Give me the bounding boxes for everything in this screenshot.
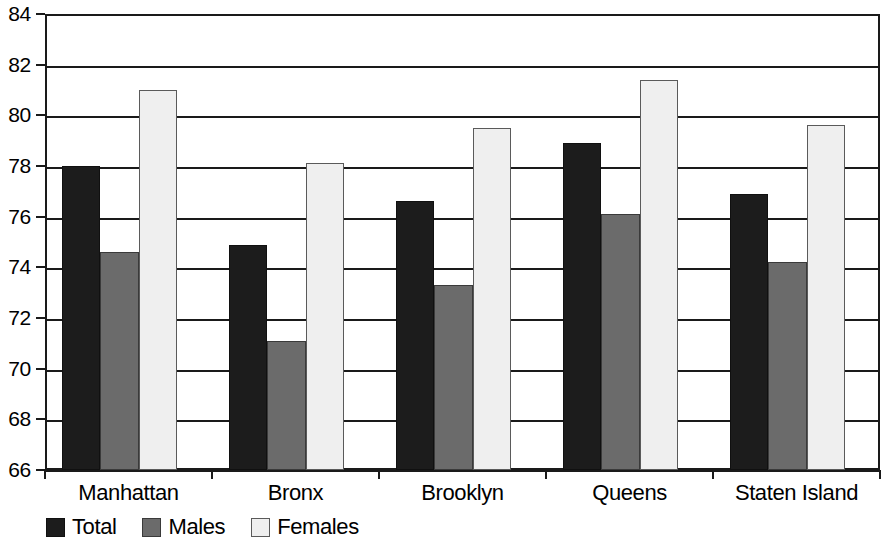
gridline [47, 66, 878, 68]
gridline [47, 420, 878, 422]
legend-swatch-males-icon [142, 518, 161, 537]
y-tick-mark [36, 13, 45, 15]
y-tick-label: 74 [2, 256, 31, 277]
x-category-label-brooklyn: Brooklyn [379, 480, 546, 506]
y-tick-label: 70 [2, 358, 31, 379]
y-tick-label: 66 [2, 459, 31, 480]
x-tick-mark [545, 470, 547, 479]
x-category-label-bronx: Bronx [212, 480, 379, 506]
y-tick-mark [36, 216, 45, 218]
x-tick-mark [879, 470, 881, 479]
y-tick-mark [36, 114, 45, 116]
y-tick-label: 68 [2, 408, 31, 429]
y-tick-mark [36, 266, 45, 268]
legend-item-females[interactable]: Females [251, 516, 359, 538]
bar-chart: 66687072747678808284 ManhattanBronxBrook… [0, 0, 886, 546]
legend-label: Total [72, 516, 116, 538]
plot-area [45, 14, 880, 470]
y-tick-mark [36, 64, 45, 66]
gridline [47, 167, 878, 169]
y-tick-label: 76 [2, 206, 31, 227]
gridline [47, 116, 878, 118]
x-axis-line [45, 470, 880, 472]
gridline [47, 370, 878, 372]
legend-label: Females [277, 516, 359, 538]
x-category-label-queens: Queens [546, 480, 713, 506]
gridline [47, 218, 878, 220]
chart-legend: TotalMalesFemales [46, 516, 359, 538]
legend-label: Males [168, 516, 225, 538]
y-tick-mark [36, 418, 45, 420]
x-category-label-manhattan: Manhattan [45, 480, 212, 506]
y-tick-label: 78 [2, 155, 31, 176]
x-category-label-staten-island: Staten Island [713, 480, 880, 506]
y-tick-label: 72 [2, 307, 31, 328]
y-tick-mark [36, 368, 45, 370]
y-tick-mark [36, 165, 45, 167]
x-tick-mark [44, 470, 46, 479]
legend-item-total[interactable]: Total [46, 516, 116, 538]
y-tick-label: 84 [2, 3, 31, 24]
y-tick-label: 82 [2, 54, 31, 75]
x-tick-mark [211, 470, 213, 479]
gridline [47, 268, 878, 270]
gridline [47, 319, 878, 321]
legend-item-males[interactable]: Males [142, 516, 225, 538]
x-tick-mark [712, 470, 714, 479]
y-tick-mark [36, 317, 45, 319]
legend-swatch-females-icon [251, 518, 270, 537]
y-tick-label: 80 [2, 104, 31, 125]
legend-swatch-total-icon [46, 518, 65, 537]
x-tick-mark [378, 470, 380, 479]
